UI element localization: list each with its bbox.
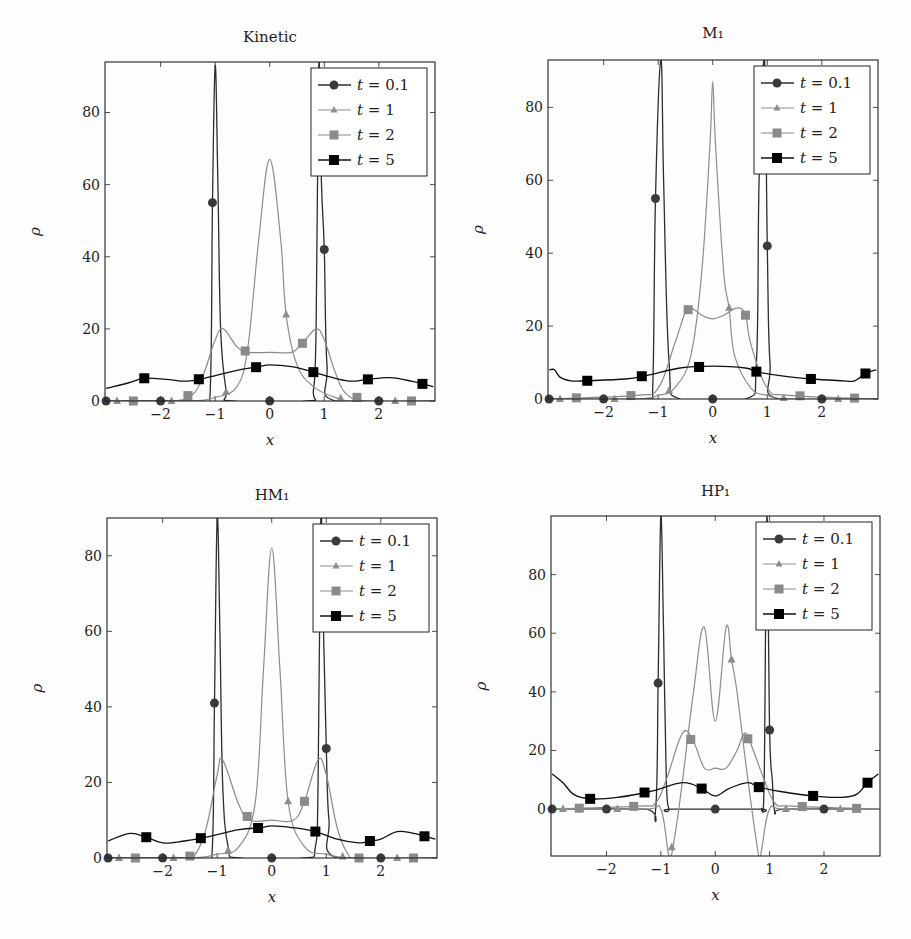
x-tick-label: 0 (265, 406, 274, 422)
y-tick-label: 0 (93, 850, 102, 866)
series-markers (129, 339, 416, 406)
series-markers (556, 303, 842, 402)
legend-label: t = 0.1 (359, 532, 411, 550)
legend: t = 0.1t = 1t = 2t = 5 (756, 522, 872, 630)
x-tick-label: −2 (152, 863, 173, 879)
series-markers (559, 655, 844, 850)
y-tick-label: 60 (84, 623, 102, 639)
series-line (108, 826, 435, 843)
x-axis-label: x (266, 431, 275, 449)
x-axis-label: x (268, 888, 277, 906)
y-tick-label: 0 (534, 391, 543, 407)
legend-label: t = 2 (359, 582, 397, 600)
series-markers (575, 734, 861, 813)
panel-hm1: HM₁−2−1012020406080xρt = 0.1t = 1t = 2t … (28, 486, 437, 906)
legend: t = 0.1t = 1t = 2t = 5 (311, 68, 427, 176)
x-tick-label: −1 (648, 404, 669, 420)
x-tick-label: −1 (207, 863, 228, 879)
y-tick-label: 0 (537, 801, 546, 817)
series-markers (548, 679, 829, 814)
y-tick-label: 0 (91, 393, 100, 409)
figure-svg: Kinetic−2−1012020406080xρt = 0.1t = 1t =… (0, 0, 911, 939)
series-markers (572, 305, 859, 402)
legend-label: t = 0.1 (800, 74, 852, 92)
y-axis-label: ρ (469, 225, 487, 235)
y-tick-label: 40 (525, 245, 543, 261)
series-markers (131, 797, 418, 863)
y-tick-label: 40 (82, 249, 100, 265)
x-tick-label: 0 (708, 404, 717, 420)
x-tick-label: 1 (765, 861, 774, 877)
legend-label: t = 2 (800, 124, 838, 142)
legend-label: t = 2 (802, 580, 840, 598)
legend-label: t = 5 (357, 151, 395, 169)
legend-label: t = 5 (359, 607, 397, 625)
legend-label: t = 2 (357, 126, 395, 144)
legend-label: t = 1 (357, 101, 395, 119)
y-tick-label: 60 (525, 172, 543, 188)
x-tick-label: −2 (596, 861, 617, 877)
y-axis-label: ρ (26, 227, 44, 237)
y-tick-label: 40 (528, 684, 546, 700)
x-tick-label: 0 (267, 863, 276, 879)
legend-label: t = 0.1 (802, 530, 854, 548)
chart-title: HP₁ (701, 482, 730, 500)
y-axis-label: ρ (472, 681, 490, 691)
panel-m1: M₁−2−1012020406080xρt = 0.1t = 1t = 2t =… (469, 24, 878, 447)
legend-label: t = 1 (802, 555, 840, 573)
legend: t = 0.1t = 1t = 2t = 5 (754, 66, 870, 174)
series-markers (113, 310, 399, 404)
legend-label: t = 1 (800, 99, 838, 117)
y-tick-label: 60 (82, 177, 100, 193)
panel-kinetic: Kinetic−2−1012020406080xρt = 0.1t = 1t =… (26, 28, 435, 449)
y-tick-label: 80 (84, 548, 102, 564)
legend-label: t = 5 (800, 149, 838, 167)
x-axis-label: x (711, 886, 720, 904)
x-tick-label: 1 (763, 404, 772, 420)
x-tick-label: −2 (150, 406, 171, 422)
y-tick-label: 80 (525, 99, 543, 115)
series-line (549, 366, 876, 381)
series-markers (582, 362, 870, 386)
chart-title: HM₁ (255, 486, 289, 504)
y-tick-label: 20 (82, 321, 100, 337)
chart-title: Kinetic (243, 28, 297, 46)
legend-label: t = 1 (359, 557, 397, 575)
x-tick-label: −2 (593, 404, 614, 420)
legend: t = 0.1t = 1t = 2t = 5 (313, 524, 429, 632)
x-axis-label: x (709, 429, 718, 447)
series-line (108, 758, 435, 858)
x-tick-label: −1 (651, 861, 672, 877)
x-tick-label: 2 (820, 861, 829, 877)
x-tick-label: 2 (376, 863, 385, 879)
x-tick-label: −1 (205, 406, 226, 422)
series-line (552, 774, 878, 799)
y-tick-label: 80 (82, 104, 100, 120)
series-line (549, 307, 876, 399)
x-tick-label: 2 (374, 406, 383, 422)
y-tick-label: 20 (84, 774, 102, 790)
x-tick-label: 2 (817, 404, 826, 420)
chart-title: M₁ (702, 24, 723, 42)
x-tick-label: 0 (711, 861, 720, 877)
x-tick-label: 1 (322, 863, 331, 879)
y-tick-label: 20 (528, 742, 546, 758)
x-tick-label: 1 (320, 406, 329, 422)
y-axis-label: ρ (28, 683, 46, 693)
panel-hp1: HP₁−2−1012020406080xρt = 0.1t = 1t = 2t … (472, 482, 880, 904)
legend-label: t = 0.1 (357, 76, 409, 94)
y-tick-label: 40 (84, 699, 102, 715)
legend-label: t = 5 (802, 605, 840, 623)
series-markers (585, 778, 872, 804)
y-tick-label: 60 (528, 625, 546, 641)
series-line (552, 625, 878, 862)
series-line (106, 365, 433, 389)
y-tick-label: 80 (528, 567, 546, 583)
y-tick-label: 20 (525, 318, 543, 334)
